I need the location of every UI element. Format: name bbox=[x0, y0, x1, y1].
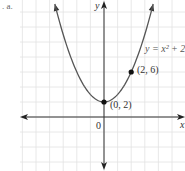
point-label-2-6: (2, 6) bbox=[137, 64, 159, 75]
parabola-graph bbox=[0, 0, 185, 171]
point-label-vertex: (0, 2) bbox=[110, 99, 132, 110]
x-axis-label: x bbox=[180, 119, 184, 130]
axes bbox=[20, 1, 185, 170]
origin-label: 0 bbox=[96, 120, 101, 131]
y-axis-label: y bbox=[95, 0, 99, 11]
part-label: . a. bbox=[2, 1, 13, 11]
equation-label: y = x² + 2 bbox=[145, 43, 185, 54]
grid-lines bbox=[20, 0, 185, 171]
